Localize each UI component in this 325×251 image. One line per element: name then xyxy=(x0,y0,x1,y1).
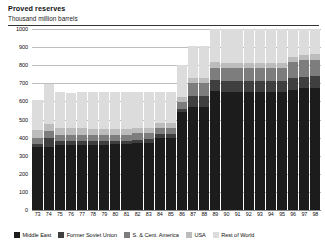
bar-segment xyxy=(221,29,231,63)
bar-segment xyxy=(121,92,131,129)
bar-segment xyxy=(255,81,265,92)
legend-label: Middle East xyxy=(23,232,52,238)
y-tick-label-100: 100 xyxy=(19,189,28,195)
bar-segment xyxy=(155,138,165,210)
bar-segment xyxy=(299,88,309,210)
bar-segment xyxy=(55,145,65,210)
y-tick-label-800: 800 xyxy=(19,62,28,68)
bar-segment xyxy=(188,107,198,210)
legend-item[interactable]: S. & Cent. America xyxy=(124,232,179,238)
bar-column[interactable] xyxy=(232,29,242,210)
bar-segment xyxy=(266,92,276,210)
bar-segment xyxy=(288,29,298,57)
bar-segment xyxy=(221,92,231,210)
bar-column[interactable] xyxy=(188,29,198,210)
bar-column[interactable] xyxy=(199,29,209,210)
bar-segment xyxy=(277,29,287,63)
bar-column[interactable] xyxy=(144,29,154,210)
bar-segment xyxy=(266,81,276,92)
bar-segment xyxy=(55,128,65,135)
bar-column[interactable] xyxy=(299,29,309,210)
bar-segment xyxy=(266,29,276,63)
legend-label: Former Soviet Union xyxy=(67,232,117,238)
bar-segment xyxy=(277,68,287,81)
bar-segment xyxy=(44,147,54,210)
bar-segment xyxy=(199,83,209,96)
legend-label: S. & Cent. America xyxy=(133,232,179,238)
bar-column[interactable] xyxy=(277,29,287,210)
bar-segment xyxy=(188,83,198,96)
bar-column[interactable] xyxy=(177,29,187,210)
bar-segment xyxy=(277,92,287,210)
bar-segment xyxy=(232,68,242,81)
chart-header: Proved reserves Thousand million barrels xyxy=(8,4,319,23)
legend-item[interactable]: USA xyxy=(186,232,206,238)
bar-segment xyxy=(177,112,187,210)
bar-column[interactable] xyxy=(88,29,98,210)
legend-item[interactable]: Middle East xyxy=(14,232,51,238)
x-tick-label-87: 87 xyxy=(188,211,198,221)
bar-column[interactable] xyxy=(310,29,320,210)
x-tick-label-89: 89 xyxy=(210,211,220,221)
bar-column[interactable] xyxy=(132,29,142,210)
bar-segment xyxy=(77,92,87,128)
y-tick-label-200: 200 xyxy=(19,171,28,177)
x-tick-label-90: 90 xyxy=(221,211,231,221)
legend-swatch-icon xyxy=(58,232,64,238)
bar-column[interactable] xyxy=(266,29,276,210)
bar-column[interactable] xyxy=(244,29,254,210)
bar-column[interactable] xyxy=(221,29,231,210)
bar-segment xyxy=(210,80,220,91)
bar-column[interactable] xyxy=(255,29,265,210)
bar-column[interactable] xyxy=(210,29,220,210)
bar-segment xyxy=(232,92,242,210)
legend-label: Rest of World xyxy=(221,232,254,238)
bar-segment xyxy=(266,68,276,81)
bar-column[interactable] xyxy=(44,29,54,210)
x-tick-label-92: 92 xyxy=(244,211,254,221)
legend-item[interactable]: Rest of World xyxy=(213,232,255,238)
bar-segment xyxy=(166,138,176,210)
bar-column[interactable] xyxy=(55,29,65,210)
bar-segment xyxy=(66,128,76,135)
bar-segment xyxy=(188,46,198,78)
bar-column[interactable] xyxy=(110,29,120,210)
y-tick-label-700: 700 xyxy=(19,80,28,86)
y-tick-label-400: 400 xyxy=(19,135,28,141)
bar-segment xyxy=(32,147,42,210)
bar-segment xyxy=(210,68,220,81)
bar-column[interactable] xyxy=(66,29,76,210)
bar-segment xyxy=(77,145,87,210)
legend-swatch-icon xyxy=(14,232,20,238)
bar-column[interactable] xyxy=(166,29,176,210)
x-tick-label-83: 83 xyxy=(144,211,154,221)
y-tick-label-600: 600 xyxy=(19,98,28,104)
bar-column[interactable] xyxy=(77,29,87,210)
bar-segment xyxy=(88,145,98,210)
bar-segment xyxy=(110,144,120,210)
bar-segment xyxy=(288,78,298,90)
bar-segment xyxy=(44,138,54,147)
bar-segment xyxy=(299,60,309,76)
bar-column[interactable] xyxy=(99,29,109,210)
x-tick-label-78: 78 xyxy=(88,211,98,221)
x-tick-label-93: 93 xyxy=(255,211,265,221)
y-tick-label-300: 300 xyxy=(19,153,28,159)
bar-column[interactable] xyxy=(288,29,298,210)
chart-title: Proved reserves xyxy=(8,4,319,13)
bar-segment xyxy=(144,92,154,127)
bar-segment xyxy=(299,77,309,89)
bar-segment xyxy=(188,96,198,107)
bar-segment xyxy=(32,100,42,131)
legend-item[interactable]: Former Soviet Union xyxy=(58,232,117,238)
x-tick-label-76: 76 xyxy=(66,211,76,221)
bar-segment xyxy=(55,92,65,127)
x-tick-label-77: 77 xyxy=(77,211,87,221)
chart-container: Proved reserves Thousand million barrels… xyxy=(0,0,325,251)
bar-segment xyxy=(44,124,54,131)
bar-column[interactable] xyxy=(155,29,165,210)
bar-column[interactable] xyxy=(32,29,42,210)
x-tick-label-97: 97 xyxy=(299,211,309,221)
bar-segment xyxy=(244,68,254,81)
bar-column[interactable] xyxy=(121,29,131,210)
